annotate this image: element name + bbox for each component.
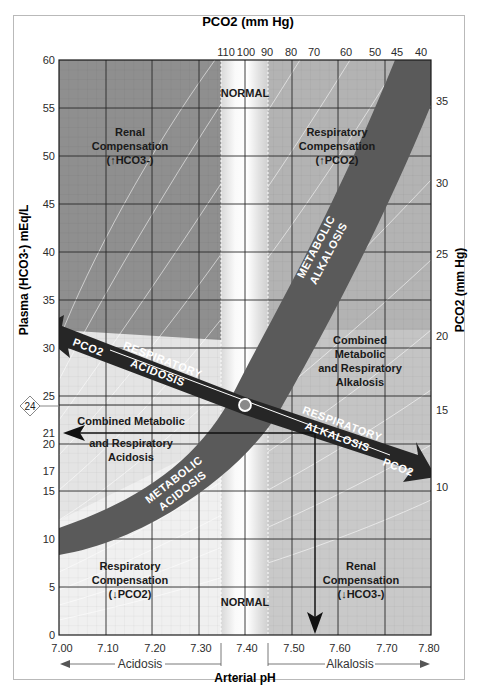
normal-point <box>239 399 251 411</box>
top-axis-title: PCO2 (mm Hg) <box>202 14 294 29</box>
svg-text:Combined: Combined <box>333 334 387 346</box>
bottom-axis-ticks: 7.00 7.10 7.20 7.30 7.40 7.50 7.60 7.70 … <box>51 642 439 654</box>
svg-text:Compensation: Compensation <box>299 140 376 152</box>
svg-text:and Respiratory: and Respiratory <box>318 362 403 374</box>
alkalosis-arrow-icon <box>420 660 430 668</box>
left-axis-ticks: 0 5 10 15 17 20 21 25 30 35 40 45 50 55 … <box>43 54 55 641</box>
svg-text:30: 30 <box>436 177 448 189</box>
normal-label-bottom: NORMAL <box>221 596 270 608</box>
normal-hco3-value: 24 <box>24 401 36 412</box>
svg-text:80: 80 <box>285 46 297 58</box>
svg-text:Respiratory: Respiratory <box>99 560 161 572</box>
svg-text:15: 15 <box>436 404 448 416</box>
svg-text:(↓HCO3-): (↓HCO3-) <box>337 588 384 600</box>
svg-text:40: 40 <box>43 246 55 258</box>
svg-text:(↓PCO2): (↓PCO2) <box>109 588 152 600</box>
svg-text:7.10: 7.10 <box>97 642 118 654</box>
svg-text:60: 60 <box>43 54 55 66</box>
svg-text:25: 25 <box>436 248 448 260</box>
svg-text:Alkalosis: Alkalosis <box>336 376 384 388</box>
svg-text:5: 5 <box>49 581 55 593</box>
svg-text:Combined Metabolic: Combined Metabolic <box>77 415 185 427</box>
acidosis-label: Acidosis <box>118 657 163 671</box>
alkalosis-label: Alkalosis <box>326 657 373 671</box>
svg-text:7.60: 7.60 <box>329 642 350 654</box>
svg-text:100: 100 <box>237 46 255 58</box>
left-axis-label: Plasma (HCO3-) mEq/L <box>17 205 31 336</box>
svg-text:Renal: Renal <box>346 560 376 572</box>
svg-text:10: 10 <box>43 533 55 545</box>
svg-text:7.70: 7.70 <box>376 642 397 654</box>
svg-text:50: 50 <box>43 150 55 162</box>
svg-text:10: 10 <box>436 481 448 493</box>
svg-text:7.20: 7.20 <box>144 642 165 654</box>
svg-text:Metabolic: Metabolic <box>335 348 386 360</box>
svg-text:25: 25 <box>43 390 55 402</box>
svg-text:(↑HCO3-): (↑HCO3-) <box>106 154 153 166</box>
bottom-axis-label: Arterial pH <box>214 671 275 685</box>
svg-text:15: 15 <box>43 485 55 497</box>
svg-text:Renal: Renal <box>115 126 145 138</box>
svg-text:7.30: 7.30 <box>190 642 211 654</box>
svg-text:7.40: 7.40 <box>236 642 257 654</box>
svg-text:Respiratory: Respiratory <box>306 126 368 138</box>
svg-text:60: 60 <box>340 46 352 58</box>
svg-text:40: 40 <box>415 46 427 58</box>
svg-text:30: 30 <box>43 342 55 354</box>
normal-label-top: NORMAL <box>221 87 270 99</box>
svg-text:45: 45 <box>43 198 55 210</box>
svg-text:35: 35 <box>43 294 55 306</box>
svg-text:50: 50 <box>369 46 381 58</box>
svg-text:7.00: 7.00 <box>51 642 72 654</box>
svg-text:20: 20 <box>436 330 448 342</box>
svg-text:0: 0 <box>49 629 55 641</box>
svg-text:45: 45 <box>391 46 403 58</box>
svg-text:90: 90 <box>261 46 273 58</box>
svg-text:Compensation: Compensation <box>323 574 400 586</box>
acidosis-arrow-icon <box>60 660 70 668</box>
svg-text:7.50: 7.50 <box>283 642 304 654</box>
right-axis-label: PCO2 (mm Hg) <box>453 248 467 333</box>
top-axis-ticks: 110 100 90 80 70 60 50 45 40 <box>217 46 427 58</box>
svg-text:7.80: 7.80 <box>418 642 439 654</box>
svg-text:35: 35 <box>436 95 448 107</box>
svg-text:(↑PCO2): (↑PCO2) <box>316 154 359 166</box>
right-axis-ticks: 35 30 25 20 15 10 <box>436 95 448 493</box>
svg-text:and Respiratory: and Respiratory <box>89 437 174 449</box>
svg-text:17: 17 <box>43 465 55 477</box>
svg-text:110: 110 <box>217 46 235 58</box>
acid-base-nomogram: PCO2 (mm Hg) 110 100 90 80 70 60 50 45 4… <box>0 0 488 692</box>
svg-text:70: 70 <box>308 46 320 58</box>
svg-text:Acidosis: Acidosis <box>108 451 154 463</box>
svg-text:20: 20 <box>43 438 55 450</box>
svg-text:Compensation: Compensation <box>92 574 169 586</box>
svg-text:55: 55 <box>43 102 55 114</box>
svg-text:21: 21 <box>43 427 55 439</box>
svg-text:Compensation: Compensation <box>92 140 169 152</box>
